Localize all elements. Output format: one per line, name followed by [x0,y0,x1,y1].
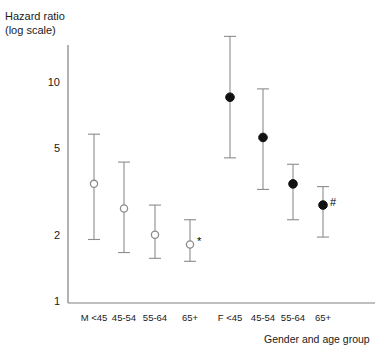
marker-open-circle [120,205,127,212]
marker-filled-circle [319,201,328,210]
data-point-group [88,134,100,239]
data-point-group [317,187,329,237]
significance-annotation: * [197,235,201,247]
marker-open-circle [90,180,97,187]
hazard-ratio-chart: Hazard ratio(log scale) Gender and age g… [0,0,388,357]
data-point-group [224,36,236,157]
significance-annotation: # [330,196,336,208]
marker-open-circle [186,241,193,248]
data-point-group [287,164,299,219]
y-tick-label: 5 [26,142,60,154]
x-tick-label: 65+ [293,312,353,323]
marker-open-circle [151,231,158,238]
y-tick-label: 2 [26,229,60,241]
data-point-group [149,205,161,258]
marker-filled-circle [226,93,235,102]
y-tick-label: 1 [26,295,60,307]
data-point-group [257,89,269,190]
x-axis-title: Gender and age group [264,333,370,347]
marker-filled-circle [259,133,268,142]
marker-filled-circle [289,180,298,189]
y-tick-label: 10 [26,76,60,88]
data-point-group [184,220,196,262]
data-point-group [118,162,130,252]
